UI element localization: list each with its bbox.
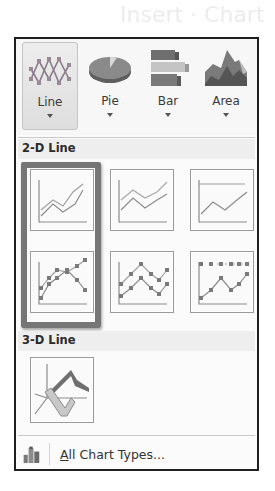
chart-option-stacked-line-with-markers[interactable] <box>110 251 174 313</box>
chart-type-ribbon: Line Pie Bar <box>16 39 257 135</box>
section-title-3d-line: 3-D Line <box>22 333 76 347</box>
100-stacked-line-markers-icon <box>191 252 255 314</box>
chart-option-stacked-line[interactable] <box>110 169 174 231</box>
stacked-line-icon <box>111 170 175 232</box>
stacked-line-markers-icon <box>111 252 175 314</box>
divider <box>18 435 255 436</box>
chart-option-line[interactable] <box>30 169 94 231</box>
background-title: Insert · Chart <box>120 2 270 28</box>
chevron-down-icon <box>107 113 113 117</box>
pie-chart-label: Pie <box>101 94 119 108</box>
chevron-down-icon <box>165 113 171 117</box>
pie-chart-icon <box>87 48 133 88</box>
all-chart-types-label: All Chart Types... <box>60 447 165 462</box>
label-text: ll Chart Types... <box>69 447 165 462</box>
chevron-down-icon <box>223 113 229 117</box>
area-chart-icon <box>203 48 249 88</box>
chart-option-100-stacked-line-with-markers[interactable] <box>190 251 254 313</box>
chart-type-dropdown: Line Pie Bar <box>14 37 259 471</box>
3d-line-icon <box>31 358 95 424</box>
section-title-2d-line: 2-D Line <box>22 141 76 155</box>
line-chart-button[interactable]: Line <box>22 42 78 130</box>
bar-chart-icon <box>145 48 191 88</box>
chart-option-100-stacked-line[interactable] <box>190 169 254 231</box>
line-chart-icon <box>27 49 73 89</box>
area-chart-button[interactable]: Area <box>198 42 254 130</box>
bar-chart-button[interactable]: Bar <box>140 42 196 130</box>
100-stacked-line-icon <box>191 170 255 232</box>
chart-option-3d-line[interactable] <box>30 357 94 423</box>
area-chart-label: Area <box>212 94 240 108</box>
bar-chart-label: Bar <box>158 94 179 108</box>
accesskey-letter: A <box>60 447 69 462</box>
all-chart-types-icon <box>22 443 50 465</box>
line-with-markers-icon <box>31 252 95 314</box>
chart-option-line-with-markers[interactable] <box>30 251 94 313</box>
line-chart-label: Line <box>37 95 62 109</box>
pie-chart-button[interactable]: Pie <box>82 42 138 130</box>
divider <box>18 137 255 138</box>
chevron-down-icon <box>47 114 53 118</box>
line-icon <box>31 170 95 232</box>
all-chart-types-button[interactable]: All Chart Types... <box>18 439 255 469</box>
